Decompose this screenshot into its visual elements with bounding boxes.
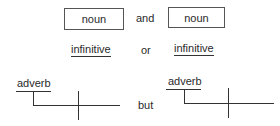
modifier-stem (184, 89, 185, 104)
divider (228, 88, 229, 118)
connector-or: or (141, 44, 151, 56)
infinitive-right: infinitive (174, 42, 214, 56)
noun-label: noun (184, 12, 208, 24)
noun-box-left: noun (64, 8, 124, 30)
connector-but: but (138, 99, 153, 111)
adverb-label: adverb (168, 75, 202, 87)
infinitive-left: infinitive (71, 43, 111, 57)
adverb-label: adverb (17, 77, 51, 89)
baseline (184, 103, 274, 104)
noun-label: noun (82, 13, 106, 25)
baseline (33, 105, 120, 106)
noun-box-right: noun (168, 7, 225, 28)
connector-and: and (136, 12, 154, 24)
modifier-stem (33, 91, 34, 106)
divider (78, 91, 79, 120)
